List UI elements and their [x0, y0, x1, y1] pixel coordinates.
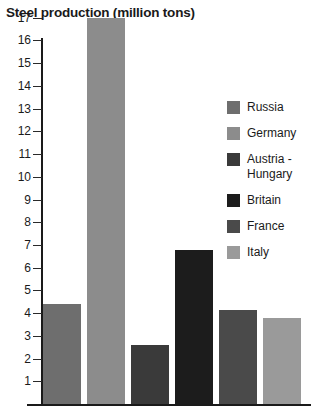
- legend-swatch-icon: [227, 101, 240, 114]
- chart-page: Steel production (million tons) 17161514…: [0, 0, 315, 419]
- bar-russia[interactable]: [43, 304, 81, 404]
- y-axis-tick: [33, 18, 42, 19]
- bar-france[interactable]: [219, 310, 257, 404]
- legend-item[interactable]: Britain: [227, 193, 315, 208]
- y-axis-tick: [33, 359, 42, 360]
- legend-item-label: France: [247, 219, 284, 234]
- y-axis-tick: [33, 109, 42, 110]
- y-axis-tick: [33, 86, 42, 87]
- legend-item[interactable]: Italy: [227, 245, 315, 260]
- legend-item-label: Italy: [247, 245, 269, 260]
- x-axis-baseline: [27, 404, 311, 406]
- y-axis-tick: [33, 40, 42, 41]
- bar-germany[interactable]: [87, 18, 125, 404]
- legend-item[interactable]: Germany: [227, 126, 315, 141]
- legend-swatch-icon: [227, 127, 240, 140]
- y-axis-tick: [33, 336, 42, 337]
- y-axis-tick: [33, 154, 42, 155]
- y-axis-tick: [33, 245, 42, 246]
- y-axis-tick: [33, 313, 42, 314]
- bar-austria-hungary[interactable]: [131, 345, 169, 404]
- legend-item[interactable]: Russia: [227, 100, 315, 115]
- legend-swatch-icon: [227, 194, 240, 207]
- legend: RussiaGermanyAustria - HungaryBritainFra…: [227, 100, 315, 271]
- bar-britain[interactable]: [175, 250, 213, 404]
- legend-item[interactable]: France: [227, 219, 315, 234]
- y-axis-tick: [33, 63, 42, 64]
- legend-swatch-icon: [227, 246, 240, 259]
- y-axis-tick: [33, 200, 42, 201]
- legend-swatch-icon: [227, 153, 240, 166]
- legend-item-label: Britain: [247, 193, 281, 208]
- legend-swatch-icon: [227, 220, 240, 233]
- bar-italy[interactable]: [263, 318, 301, 404]
- y-axis-tick: [33, 222, 42, 223]
- legend-item[interactable]: Austria - Hungary: [227, 152, 315, 182]
- legend-item-label: Germany: [247, 126, 296, 141]
- legend-item-label: Austria - Hungary: [247, 152, 292, 182]
- y-axis-tick: [33, 131, 42, 132]
- y-axis-tick: [33, 177, 42, 178]
- y-axis-tick: [33, 290, 42, 291]
- legend-item-label: Russia: [247, 100, 284, 115]
- y-axis-tick: [33, 268, 42, 269]
- y-axis-tick: [33, 381, 42, 382]
